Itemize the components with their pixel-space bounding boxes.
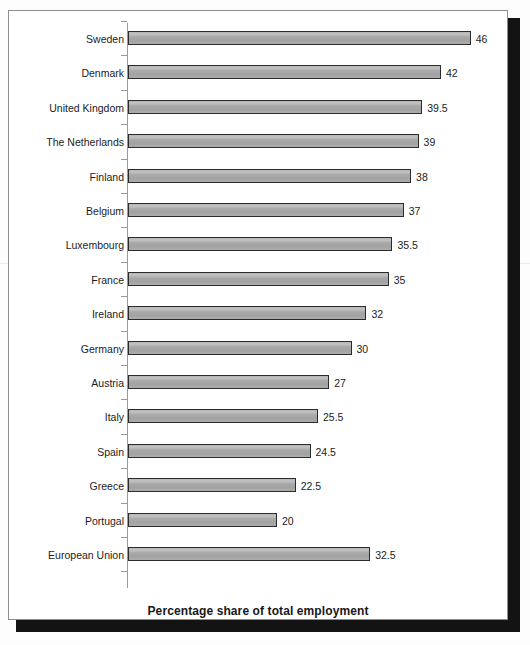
category-label: Luxembourg: [0, 238, 124, 252]
bar-row: United Kingdom39.5: [9, 100, 507, 116]
category-label: Germany: [0, 342, 124, 356]
bar: [128, 409, 318, 423]
value-label: 42: [446, 66, 458, 80]
value-label: 25.5: [323, 410, 343, 424]
category-label: The Netherlands: [0, 135, 124, 149]
value-label: 24.5: [316, 445, 336, 459]
category-label: Sweden: [0, 32, 124, 46]
scanned-page: Sweden46Denmark42United Kingdom39.5The N…: [0, 0, 530, 645]
bar: [128, 134, 419, 148]
category-label: Finland: [0, 170, 124, 184]
value-label: 39.5: [427, 101, 447, 115]
bar-row: France35: [9, 272, 507, 288]
bar: [128, 306, 366, 320]
bar-row: Germany30: [9, 341, 507, 357]
value-label: 35.5: [397, 238, 417, 252]
axis-tick: [121, 55, 127, 56]
bar: [128, 31, 471, 45]
axis-tick: [121, 331, 127, 332]
value-label: 38: [416, 170, 428, 184]
bar: [128, 65, 441, 79]
axis-tick: [121, 365, 127, 366]
axis-tick: [121, 227, 127, 228]
bar-row: Portugal20: [9, 513, 507, 529]
axis-tick: [121, 503, 127, 504]
axis-tick: [121, 262, 127, 263]
value-label: 32: [371, 307, 383, 321]
category-label: Italy: [0, 410, 124, 424]
bar: [128, 375, 329, 389]
axis-tick: [121, 296, 127, 297]
value-label: 30: [357, 342, 369, 356]
category-label: United Kingdom: [0, 101, 124, 115]
bar: [128, 547, 370, 561]
value-label: 35: [394, 273, 406, 287]
bar: [128, 444, 311, 458]
axis-tick: [121, 399, 127, 400]
category-label: Spain: [0, 445, 124, 459]
bar: [128, 237, 392, 251]
bar-row: Austria27: [9, 375, 507, 391]
bar-row: Finland38: [9, 169, 507, 185]
bar-row: Denmark42: [9, 65, 507, 81]
bar-row: Sweden46: [9, 31, 507, 47]
bar-row: European Union32.5: [9, 547, 507, 563]
category-label: Ireland: [0, 307, 124, 321]
bar: [128, 203, 404, 217]
category-label: Belgium: [0, 204, 124, 218]
category-label: European Union: [0, 548, 124, 562]
axis-tick: [121, 159, 127, 160]
category-label: Portugal: [0, 514, 124, 528]
value-label: 27: [334, 376, 346, 390]
bar: [128, 478, 296, 492]
axis-tick: [121, 90, 127, 91]
axis-title: Percentage share of total employment: [9, 604, 507, 618]
category-label: France: [0, 273, 124, 287]
axis-tick: [121, 434, 127, 435]
bar-row: The Netherlands39: [9, 134, 507, 150]
category-label: Greece: [0, 479, 124, 493]
axis-tick: [121, 537, 127, 538]
axis-tick: [121, 21, 127, 22]
value-label: 32.5: [375, 548, 395, 562]
axis-tick: [121, 193, 127, 194]
bar: [128, 272, 389, 286]
bar: [128, 169, 411, 183]
category-label: Austria: [0, 376, 124, 390]
axis-tick: [121, 571, 127, 572]
bar-row: Luxembourg35.5: [9, 237, 507, 253]
axis-tick: [121, 124, 127, 125]
bar: [128, 513, 277, 527]
bar-row: Greece22.5: [9, 478, 507, 494]
bar: [128, 100, 422, 114]
value-label: 20: [282, 514, 294, 528]
category-label: Denmark: [0, 66, 124, 80]
bar-row: Ireland32: [9, 306, 507, 322]
bar: [128, 341, 352, 355]
axis-tick: [121, 468, 127, 469]
bar-chart-plot-area: Sweden46Denmark42United Kingdom39.5The N…: [9, 11, 507, 619]
figure-frame: Sweden46Denmark42United Kingdom39.5The N…: [8, 10, 508, 620]
value-label: 22.5: [301, 479, 321, 493]
bar-row: Spain24.5: [9, 444, 507, 460]
value-label: 39: [424, 135, 436, 149]
value-label: 37: [409, 204, 421, 218]
value-label: 46: [476, 32, 488, 46]
bar-row: Italy25.5: [9, 409, 507, 425]
bar-row: Belgium37: [9, 203, 507, 219]
